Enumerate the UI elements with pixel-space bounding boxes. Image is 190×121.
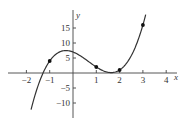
y-tick-label: −10	[56, 98, 71, 108]
x-tick-label: −2	[22, 75, 32, 85]
y-tick-label: −5	[60, 83, 70, 93]
data-point	[141, 23, 145, 27]
y-tick-label: 15	[61, 23, 71, 33]
function-graph: −2−1123415105−5−10 x y	[0, 0, 190, 121]
y-tick-label: 5	[66, 53, 71, 63]
x-axis-label: x	[173, 72, 178, 82]
y-tick-label: 10	[61, 38, 71, 48]
x-tick-label: 1	[94, 75, 99, 85]
data-point	[118, 68, 122, 72]
x-tick-label: −1	[45, 75, 55, 85]
data-point	[48, 59, 52, 63]
data-point	[94, 65, 98, 69]
x-tick-label: 4	[164, 75, 169, 85]
y-axis-label: y	[75, 10, 80, 20]
x-tick-label: 3	[141, 75, 146, 85]
x-tick-label: 2	[117, 75, 122, 85]
